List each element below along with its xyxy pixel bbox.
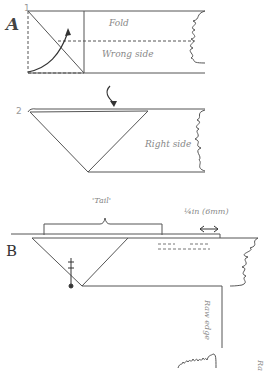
raw-edge-label: Raw edge bbox=[203, 300, 212, 340]
fold-label: Fold bbox=[109, 18, 129, 28]
measurement-label: ¼in (6mm) bbox=[184, 207, 229, 216]
down-arrow-head-icon bbox=[110, 101, 117, 107]
tail-label: 'Tail' bbox=[92, 196, 111, 205]
section-a-label: A bbox=[6, 14, 19, 34]
curved-down-arrow bbox=[107, 86, 114, 103]
tail-brace bbox=[44, 218, 162, 235]
fold-arrow-head-icon bbox=[65, 28, 71, 36]
fold-arrow-curve bbox=[28, 32, 68, 72]
step-2-number: 2 bbox=[16, 106, 22, 116]
step-1-number: 1 bbox=[24, 3, 30, 13]
raw-edge-partial-label: Ra bbox=[256, 360, 265, 371]
wrong-side-label: Wrong side bbox=[102, 49, 154, 59]
right-side-label: Right side bbox=[145, 139, 191, 149]
stitch-lines bbox=[158, 244, 210, 249]
bottom-zigzag bbox=[178, 354, 216, 368]
section-b-label: B bbox=[6, 242, 17, 260]
measurement-arrow-icon bbox=[200, 226, 218, 232]
